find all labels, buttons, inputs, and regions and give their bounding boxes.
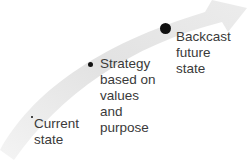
strategy-label: Strategy based on values and purpose bbox=[100, 56, 156, 136]
backcast-marker bbox=[160, 23, 171, 34]
current-state-label: Current state bbox=[34, 116, 79, 148]
backcast-label: Backcast future state bbox=[176, 29, 231, 77]
current-state-marker bbox=[31, 116, 33, 118]
strategy-marker bbox=[88, 62, 93, 67]
